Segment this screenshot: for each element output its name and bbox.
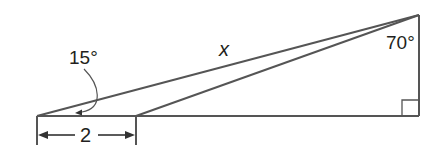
right-angle-marker [402,100,419,116]
arrowhead-left-icon [38,131,48,139]
angle-pointer-arrowhead-icon [75,110,82,116]
angle-70-label: 70° [386,32,415,53]
inner-segment [136,15,419,116]
base-length-label: 2 [80,124,91,145]
angle-15-label: 15° [69,47,98,68]
side-x-label: x [218,38,230,60]
angle-pointer-arrow [82,69,97,112]
arrowhead-right-icon [125,131,135,139]
triangle-diagram: 15° x 70° 2 [0,0,440,145]
